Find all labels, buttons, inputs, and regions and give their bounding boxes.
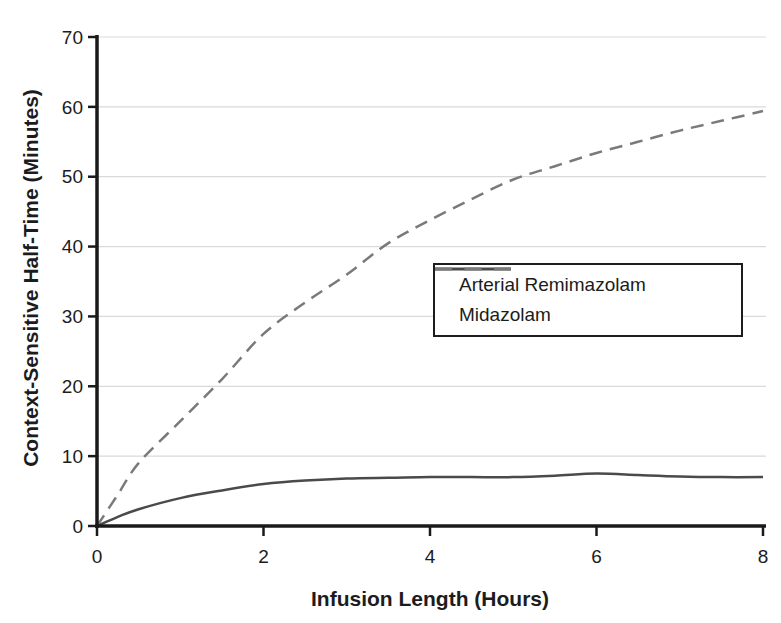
- legend-box: Arterial Remimazolam Midazolam: [433, 263, 743, 337]
- series-line-arterial-remimazolam: [97, 474, 763, 526]
- y-tick-label: 30: [62, 306, 83, 327]
- dashed-line-swatch: [435, 265, 511, 273]
- y-tick-label: 20: [62, 376, 83, 397]
- y-gridlines: [97, 37, 766, 456]
- context-sensitive-half-time-chart: 01020304050607002468 Infusion Length (Ho…: [0, 0, 781, 623]
- y-tick-label: 40: [62, 236, 83, 257]
- legend-item-arterial-remimazolam: Arterial Remimazolam: [459, 272, 741, 298]
- legend-item-midazolam: Midazolam: [459, 302, 741, 328]
- x-tick-label: 2: [258, 546, 269, 567]
- x-tick-label: 4: [425, 546, 436, 567]
- legend-label: Midazolam: [459, 304, 551, 326]
- y-tick-label: 0: [72, 516, 83, 537]
- y-tick-label: 70: [62, 27, 83, 48]
- legend-label: Arterial Remimazolam: [459, 274, 646, 296]
- x-tick-label: 0: [92, 546, 103, 567]
- y-tick-label: 10: [62, 446, 83, 467]
- x-tick-label: 6: [591, 546, 602, 567]
- y-tick-label: 50: [62, 166, 83, 187]
- x-tick-label: 8: [758, 546, 769, 567]
- y-tick-label: 60: [62, 97, 83, 118]
- y-axis-title: Context-Sensitive Half-Time (Minutes): [19, 89, 42, 467]
- x-axis-title: Infusion Length (Hours): [311, 587, 549, 610]
